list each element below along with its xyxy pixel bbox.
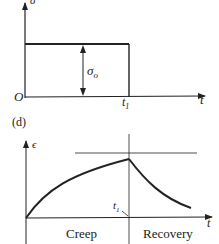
y-axis-label-top: σ <box>30 0 36 6</box>
stress-level-label: σo <box>87 63 98 80</box>
t1-pointer <box>122 211 128 216</box>
t1-label-bottom: t1 <box>113 199 120 214</box>
recovery-region-label: Recovery <box>143 226 193 241</box>
t1-label-top: t1 <box>122 95 129 111</box>
stress-time-plot: σo O t1 t σ <box>14 0 205 111</box>
panel-label-d: (d) <box>12 115 26 129</box>
x-axis-label-top: t <box>200 92 204 107</box>
creep-region-label: Creep <box>66 226 97 241</box>
creep-recovery-diagram: σo O t1 t σ (d) t1 t ϵ Creep Recovery <box>0 0 219 244</box>
strain-time-plot: t1 t ϵ Creep Recovery <box>26 134 212 244</box>
strain-x-axis <box>26 217 212 218</box>
x-axis-label-bottom: t <box>207 216 211 230</box>
recovery-curve <box>129 159 191 208</box>
stress-x-axis <box>25 96 205 97</box>
origin-label: O <box>14 89 24 104</box>
y-axis-label-bottom: ϵ <box>32 138 37 150</box>
